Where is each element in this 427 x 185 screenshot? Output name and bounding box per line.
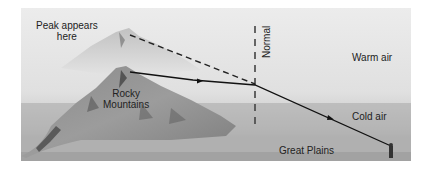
peak-appears-line1: Peak appears <box>36 20 98 31</box>
great-plains-label: Great Plains <box>279 145 334 156</box>
rocky-mountains-line2: Mountains <box>103 99 149 110</box>
rocky-mountains-line1: Rocky <box>103 88 149 99</box>
peak-appears-line2: here <box>36 31 98 42</box>
rocky-mountains-label: Rocky Mountains <box>103 88 149 110</box>
observer-figure <box>389 143 393 158</box>
cold-air-label: Cold air <box>352 111 386 122</box>
peak-appears-label: Peak appears here <box>36 20 98 42</box>
warm-air-label: Warm air <box>352 52 392 63</box>
mirage-diagram: Peak appears here Normal Warm air Rocky … <box>21 8 411 161</box>
normal-label: Normal <box>261 26 272 58</box>
